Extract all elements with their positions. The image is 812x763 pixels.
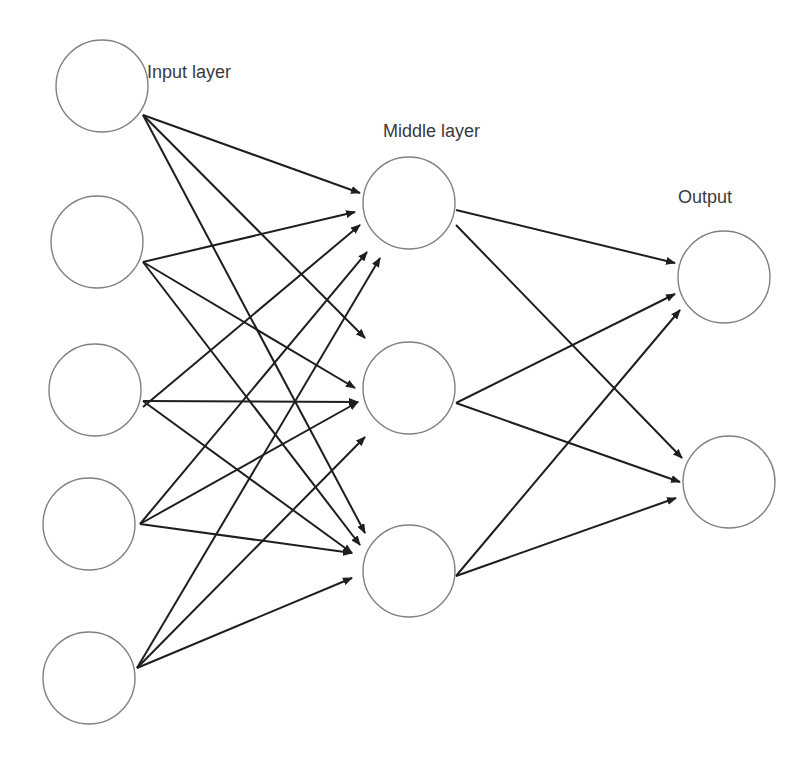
edge-i2-m2 xyxy=(143,262,355,388)
input-node-i4 xyxy=(43,478,135,570)
middle-node-m3 xyxy=(363,525,455,617)
edge-i4-m2 xyxy=(140,402,358,524)
output-layer-label: Output xyxy=(678,187,732,207)
edge-i3-m1 xyxy=(143,225,360,407)
edge-i3-m2 xyxy=(143,401,358,402)
edge-i5-m3 xyxy=(137,578,352,668)
input-layer-label: Input layer xyxy=(147,62,231,82)
edge-m1-o2 xyxy=(456,225,682,458)
output-node-o1 xyxy=(678,231,770,323)
edge-i5-m1 xyxy=(137,258,380,668)
input-node-i5 xyxy=(43,632,135,724)
edge-i2-m3 xyxy=(143,262,360,545)
input-node-i1 xyxy=(56,40,148,132)
edge-m2-o1 xyxy=(456,294,675,403)
neuron-nodes xyxy=(43,40,775,724)
input-node-i2 xyxy=(51,196,143,288)
edge-i4-m1 xyxy=(140,252,367,524)
edge-i4-m3 xyxy=(140,524,352,553)
edge-i5-m2 xyxy=(137,437,365,668)
output-node-o2 xyxy=(683,436,775,528)
neural-network-diagram: Input layer Middle layer Output xyxy=(0,0,812,763)
edge-m1-o1 xyxy=(456,210,675,263)
middle-node-m2 xyxy=(363,342,455,434)
middle-node-m1 xyxy=(363,157,455,249)
edge-i1-m1 xyxy=(143,115,360,193)
input-node-i3 xyxy=(49,344,141,436)
edge-i2-m1 xyxy=(143,212,355,262)
middle-layer-label: Middle layer xyxy=(383,121,480,141)
